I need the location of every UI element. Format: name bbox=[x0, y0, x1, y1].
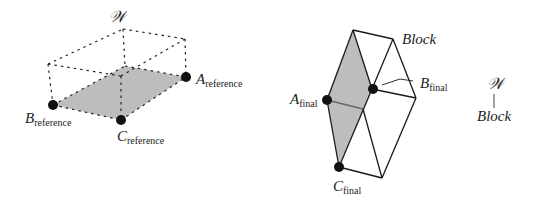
frame-label-w: 𝒲 bbox=[109, 8, 126, 26]
tree-parent-w: 𝒲 bbox=[487, 75, 504, 93]
label-a-final: Afinal bbox=[290, 91, 318, 109]
point-b-final bbox=[368, 84, 378, 94]
point-c-final bbox=[334, 162, 344, 172]
label-c-reference: Creference bbox=[117, 128, 164, 146]
label-c-final: Cfinal bbox=[333, 178, 361, 196]
point-c-reference bbox=[116, 115, 126, 125]
tree-child-block: Block bbox=[477, 108, 511, 125]
block-shaded-face bbox=[327, 30, 372, 167]
reference-plane bbox=[53, 66, 186, 120]
point-b-reference bbox=[48, 100, 58, 110]
label-b-final: Bfinal bbox=[420, 75, 448, 93]
label-a-reference: Areference bbox=[196, 71, 242, 89]
point-a-final bbox=[322, 95, 332, 105]
diagram-canvas bbox=[0, 0, 535, 198]
label-block: Block bbox=[402, 31, 436, 48]
block-figure bbox=[322, 30, 416, 178]
label-b-reference: Breference bbox=[25, 110, 71, 128]
point-a-reference bbox=[181, 72, 191, 82]
